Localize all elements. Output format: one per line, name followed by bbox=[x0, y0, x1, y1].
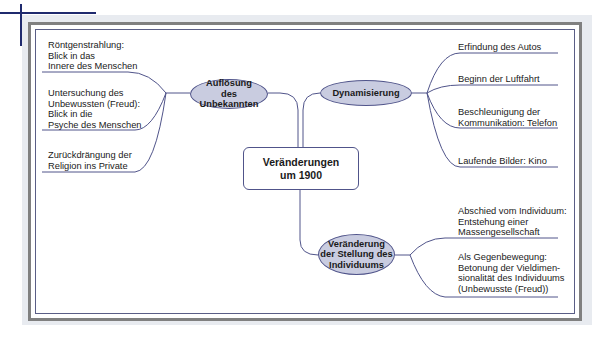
leaf-unbewussten: Untersuchung des Unbewussten (Freud): Bl… bbox=[48, 88, 142, 130]
center-node: Veränderungen um 1900 bbox=[243, 147, 359, 190]
leaf-autos: Erfindung des Autos bbox=[458, 42, 541, 53]
leaf-massengesellschaft: Abschied vom Individuum: Entstehung eine… bbox=[458, 206, 567, 238]
leaf-kino: Laufende Bilder: Kino bbox=[458, 156, 547, 167]
leaf-gegenbewegung: Als Gegenbewegung: Betonung der Vieldime… bbox=[458, 252, 564, 294]
branch-dynamisierung: Dynamisierung bbox=[320, 80, 412, 106]
leaf-luftfahrt: Beginn der Luftfahrt bbox=[458, 74, 540, 85]
leaf-roentgen: Röntgenstrahlung: Blick in das Innere de… bbox=[48, 40, 137, 72]
branch-individuum: Veränderung der Stellung des Individuums bbox=[318, 234, 395, 275]
leaf-telefon: Beschleunigung der Kommunikation: Telefo… bbox=[458, 107, 557, 128]
leaf-religion: Zurückdrängung der Religion ins Private bbox=[48, 150, 132, 171]
branch-aufloesung: Auflösung des Unbekannten bbox=[190, 79, 268, 109]
